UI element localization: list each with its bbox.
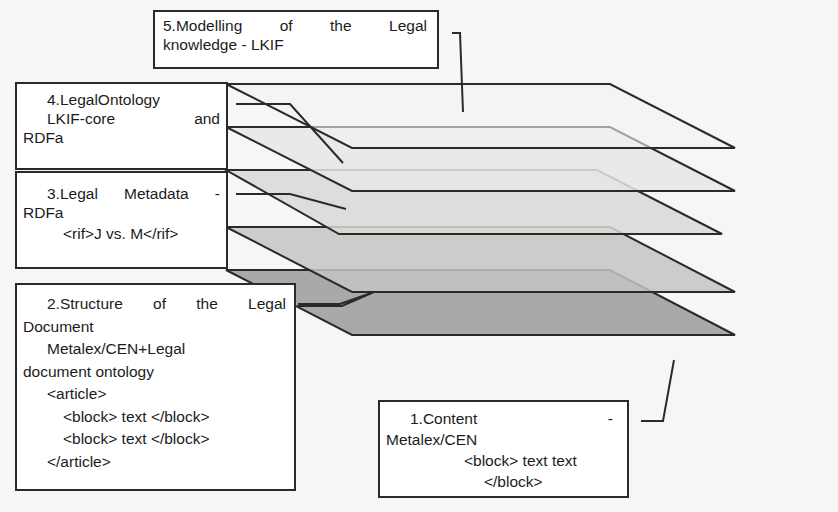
word: 1.Content [410, 408, 477, 429]
word: and [194, 109, 220, 128]
word: Legal [248, 293, 286, 316]
word: 3.Legal [47, 184, 98, 203]
layer-2-code-block-1: <block> text </block> [23, 406, 286, 429]
label-box-layer-3: 3.Legal Metadata - RDFa <rif>J vs. M</ri… [15, 171, 228, 269]
label-box-layer-5: 5.Modelling of the Legal knowledge - LKI… [153, 10, 439, 69]
word: the [196, 293, 218, 316]
label-box-layer-1: 1.Content - Metalex/CEN <block> text tex… [378, 400, 629, 498]
layer-2-code-block-2: <block> text </block> [23, 428, 286, 451]
layer-3-line2: RDFa [23, 203, 220, 222]
word: 2.Structure [47, 293, 123, 316]
layer-2-line3: Metalex/CEN+Legal [23, 338, 286, 361]
layer-4-line2: LKIF-core and [23, 109, 220, 128]
connector-1 [641, 360, 674, 421]
label-box-layer-4: 4.LegalOntology LKIF-core and RDFa [15, 82, 228, 170]
word: - [215, 184, 220, 203]
layer-2-line2: Document [23, 316, 286, 339]
layer-4-line3: RDFa [23, 128, 220, 147]
word: Legal [389, 16, 427, 35]
layer-5-title-line1: 5.Modelling of the Legal [163, 16, 427, 35]
layer-4-title: 4.LegalOntology [23, 90, 220, 109]
word: of [280, 16, 293, 35]
layer-5-title-line2: knowledge - LKIF [163, 35, 427, 54]
layer-2-code-close-article: </article> [23, 451, 286, 474]
layer-1-title: 1.Content - [386, 408, 613, 429]
layer-1-line2: Metalex/CEN [386, 429, 613, 450]
word: of [153, 293, 166, 316]
layer-1-code-open: <block> text text [386, 450, 613, 471]
label-box-layer-2: 2.Structure of the Legal Document Metale… [15, 283, 296, 491]
word: the [330, 16, 352, 35]
word: - [608, 408, 613, 429]
word: Metadata [124, 184, 189, 203]
layer-3-code: <rif>J vs. M</rif> [23, 222, 220, 243]
layer-2-code-open-article: <article> [23, 383, 286, 406]
layer-2-title: 2.Structure of the Legal [23, 293, 286, 316]
layer-2-line4: document ontology [23, 361, 286, 384]
word: 5.Modelling [163, 16, 242, 35]
layer-3-title: 3.Legal Metadata - [23, 184, 220, 203]
word: LKIF-core [47, 109, 115, 128]
layered-diagram: 5.Modelling of the Legal knowledge - LKI… [0, 0, 838, 512]
layer-1-code-close: </block> [386, 471, 613, 492]
